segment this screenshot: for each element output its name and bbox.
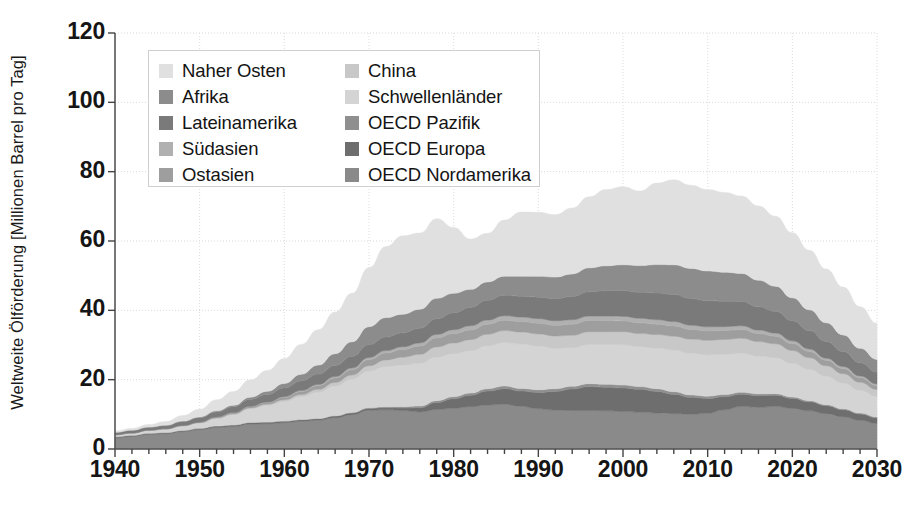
legend-swatch-icon bbox=[345, 64, 359, 78]
legend-swatch-icon bbox=[159, 64, 173, 78]
legend-swatch-icon bbox=[159, 90, 173, 104]
legend-item-label: OECD Pazifik bbox=[368, 112, 480, 134]
y-axis-tick-label: 40 bbox=[49, 295, 105, 322]
x-axis-tick-label: 2030 bbox=[832, 456, 906, 483]
legend-item[interactable]: Lateinamerika bbox=[159, 110, 339, 135]
legend-item-label: Lateinamerika bbox=[182, 112, 297, 134]
legend-item-label: China bbox=[368, 60, 416, 82]
legend-item-label: OECD Nordamerika bbox=[368, 164, 531, 186]
y-axis-tick-label: 60 bbox=[49, 226, 105, 253]
x-axis-tick-label: 1950 bbox=[155, 456, 245, 483]
legend-swatch-icon bbox=[345, 116, 359, 130]
legend-swatch-icon bbox=[345, 90, 359, 104]
legend-column-right: ChinaSchwellenländerOECD PazifikOECD Eur… bbox=[345, 58, 539, 187]
legend-swatch-icon bbox=[345, 142, 359, 156]
x-axis-tick-label: 1970 bbox=[324, 456, 414, 483]
legend-item[interactable]: OECD Pazifik bbox=[345, 110, 539, 135]
x-axis-tick-label: 2010 bbox=[663, 456, 753, 483]
legend-item-label: OECD Europa bbox=[368, 138, 485, 160]
legend-item-label: Südasien bbox=[182, 138, 258, 160]
legend-item[interactable]: Schwellenländer bbox=[345, 84, 539, 109]
legend-item[interactable]: China bbox=[345, 58, 539, 83]
legend-item[interactable]: OECD Nordamerika bbox=[345, 162, 539, 187]
legend-swatch-icon bbox=[159, 168, 173, 182]
x-axis-tick-label: 1990 bbox=[493, 456, 583, 483]
legend-column-left: Naher OstenAfrikaLateinamerikaSüdasienOs… bbox=[159, 58, 339, 187]
legend-item[interactable]: Ostasien bbox=[159, 162, 339, 187]
legend-swatch-icon bbox=[159, 142, 173, 156]
y-axis-tick-label: 20 bbox=[49, 365, 105, 392]
legend-item[interactable]: OECD Europa bbox=[345, 136, 539, 161]
legend-item-label: Ostasien bbox=[182, 164, 254, 186]
y-axis-tick-label: 100 bbox=[49, 87, 105, 114]
legend-item-label: Afrika bbox=[182, 86, 229, 108]
x-axis-tick-label: 2000 bbox=[578, 456, 668, 483]
legend-swatch-icon bbox=[345, 168, 359, 182]
legend-item[interactable]: Südasien bbox=[159, 136, 339, 161]
legend-item-label: Naher Osten bbox=[182, 60, 286, 82]
legend-item[interactable]: Afrika bbox=[159, 84, 339, 109]
x-axis-tick-label: 2020 bbox=[747, 456, 837, 483]
legend-item[interactable]: Naher Osten bbox=[159, 58, 339, 83]
x-axis-tick-label: 1960 bbox=[239, 456, 329, 483]
legend-item-label: Schwellenländer bbox=[368, 86, 502, 108]
chart-legend: Naher OstenAfrikaLateinamerikaSüdasienOs… bbox=[148, 50, 540, 187]
y-axis-tick-label: 120 bbox=[49, 18, 105, 45]
x-axis-tick-label: 1940 bbox=[70, 456, 160, 483]
x-axis-tick-label: 1980 bbox=[409, 456, 499, 483]
legend-swatch-icon bbox=[159, 116, 173, 130]
y-axis-tick-label: 80 bbox=[49, 157, 105, 184]
